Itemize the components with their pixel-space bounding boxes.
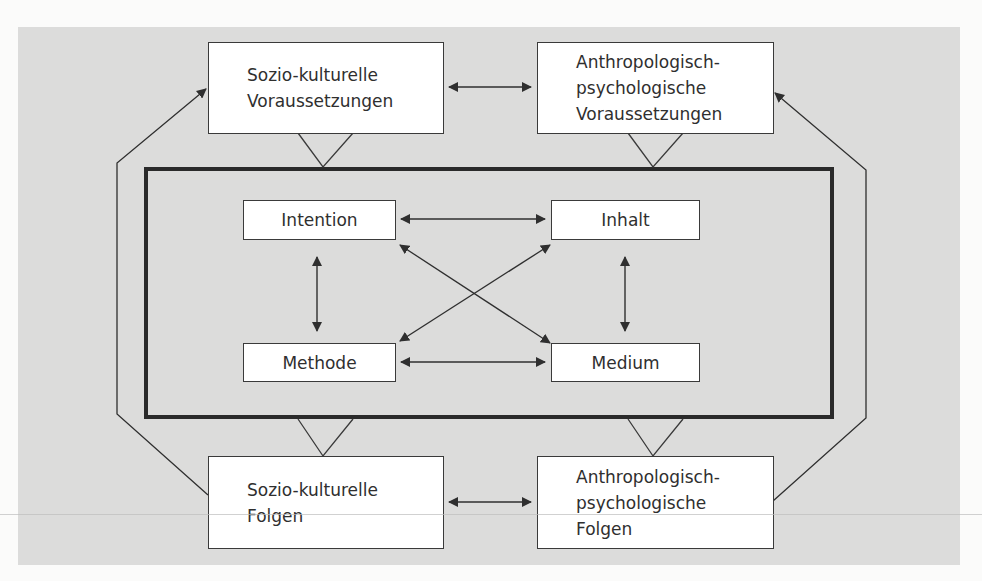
node-sociocultural-consequences: Sozio-kulturelle Folgen xyxy=(208,456,444,549)
node-intention: Intention xyxy=(243,200,396,240)
diagram-panel xyxy=(18,27,960,565)
node-label-line: Anthropologisch- xyxy=(576,49,773,75)
node-label: Intention xyxy=(281,210,357,230)
node-anthropological-consequences: Anthropologisch- psychologische Folgen xyxy=(537,456,774,549)
node-label-line: Sozio-kulturelle xyxy=(247,477,443,503)
node-label-line: psychologische xyxy=(576,490,773,516)
node-label-line: Anthropologisch- xyxy=(576,464,773,490)
node-label-line: Folgen xyxy=(576,516,773,542)
diagram-canvas: Sozio-kulturelle Voraussetzungen Anthrop… xyxy=(0,0,982,581)
node-label-line: psychologische xyxy=(576,75,773,101)
node-methode: Methode xyxy=(243,343,396,382)
node-inhalt: Inhalt xyxy=(551,200,700,240)
node-label: Medium xyxy=(592,353,660,373)
node-medium: Medium xyxy=(551,343,700,382)
node-label-line: Voraussetzungen xyxy=(247,88,443,114)
node-label-line: Sozio-kulturelle xyxy=(247,62,443,88)
node-sociocultural-preconditions: Sozio-kulturelle Voraussetzungen xyxy=(208,42,444,134)
node-anthropological-preconditions: Anthropologisch- psychologische Vorausse… xyxy=(537,42,774,134)
node-label-line: Folgen xyxy=(247,503,443,529)
node-label: Inhalt xyxy=(601,210,649,230)
node-label: Methode xyxy=(282,353,356,373)
node-label-line: Voraussetzungen xyxy=(576,101,773,127)
scan-artifact-line xyxy=(0,514,982,515)
